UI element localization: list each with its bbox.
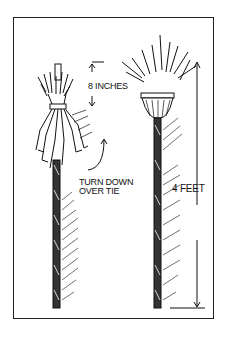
- right-mop: [122, 35, 196, 308]
- turn-down-arrow: [88, 140, 104, 170]
- mop-illustration: [0, 0, 228, 348]
- height-label: 8 INCHES: [88, 82, 128, 91]
- length-label: 4 FEET: [172, 184, 205, 193]
- instruction-line-2: OVER TIE: [79, 187, 119, 196]
